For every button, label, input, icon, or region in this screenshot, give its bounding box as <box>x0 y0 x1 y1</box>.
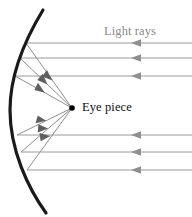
incoming-ray-3-arrowhead <box>131 72 141 80</box>
eye-piece-focus-dot <box>69 105 75 111</box>
optics-diagram: Light rays Eye piece <box>0 0 192 217</box>
incoming-ray-5-arrowhead <box>131 148 141 156</box>
concave-mirror <box>10 10 46 213</box>
eye-piece-label: Eye piece <box>82 101 132 114</box>
incoming-ray-1-arrowhead <box>131 39 141 47</box>
reflected-rays-group <box>15 43 72 170</box>
incoming-ray-4-arrowhead <box>131 131 141 139</box>
incoming-ray-6-arrowhead <box>131 166 141 174</box>
incoming-ray-2-arrowhead <box>131 54 141 62</box>
light-rays-label: Light rays <box>104 25 156 38</box>
reflected-ray-5-arrowhead <box>38 124 48 132</box>
reflected-ray-4 <box>17 108 72 135</box>
reflected-ray-3-arrowhead <box>34 83 45 93</box>
reflected-ray-5 <box>21 108 72 152</box>
reflected-ray-6 <box>27 108 72 170</box>
